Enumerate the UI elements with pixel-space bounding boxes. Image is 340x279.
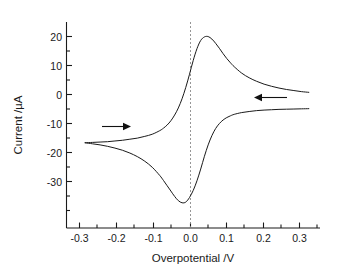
- cyclic-voltammogram-figure: 20 10 0 -10 -20 -30 -0.3 -0.2 -0.1 0.0 0…: [0, 0, 340, 279]
- cv-curve-reverse-sweep: [85, 109, 309, 203]
- y-axis-title: Current /µA: [12, 95, 24, 154]
- x-axis-title: Overpotential /V: [152, 252, 235, 264]
- y-tick-label: 10: [50, 60, 62, 72]
- y-axis-tick-labels: 20 10 0 -10 -20 -30: [47, 31, 62, 188]
- x-tick-label: -0.2: [107, 232, 125, 244]
- x-tick-label: -0.3: [70, 232, 88, 244]
- y-tick-label: -20: [47, 147, 62, 159]
- y-tick-label: -30: [47, 176, 62, 188]
- x-tick-label: 0.3: [292, 232, 307, 244]
- reverse-scan-arrow: [254, 94, 287, 101]
- y-axis-ticks: [67, 37, 73, 211]
- x-tick-label: 0.1: [219, 232, 234, 244]
- plot-frame: [67, 22, 321, 228]
- x-axis-ticks: [80, 223, 318, 229]
- reverse-scan-arrow-head: [254, 94, 262, 101]
- x-tick-label: -0.1: [144, 232, 162, 244]
- x-tick-label: 0.0: [183, 232, 198, 244]
- forward-scan-arrow-head: [123, 123, 131, 130]
- x-tick-label: 0.2: [256, 232, 271, 244]
- y-tick-label: 20: [50, 31, 62, 43]
- chart-canvas: 20 10 0 -10 -20 -30 -0.3 -0.2 -0.1 0.0 0…: [0, 0, 340, 279]
- y-tick-label: -10: [47, 118, 62, 130]
- forward-scan-arrow: [102, 123, 131, 130]
- x-axis-tick-labels: -0.3 -0.2 -0.1 0.0 0.1 0.2 0.3: [70, 232, 306, 244]
- y-tick-label: 0: [56, 89, 62, 101]
